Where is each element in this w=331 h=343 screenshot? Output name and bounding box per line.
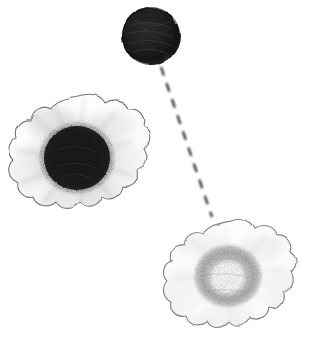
- illustration-svg: [0, 0, 331, 343]
- figure-canvas: Hand-drawn grayscale illustration of thr…: [0, 0, 331, 343]
- flower-light-ring-core-grain: [194, 245, 262, 307]
- flower-dark-center-core-grain: [39, 122, 115, 194]
